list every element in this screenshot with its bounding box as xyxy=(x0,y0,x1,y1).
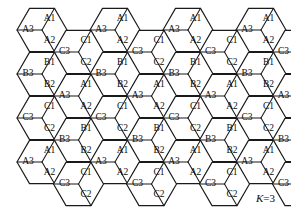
sector-label: A1 xyxy=(44,145,56,155)
sector-label: C3 xyxy=(168,112,179,122)
sector-label: C1 xyxy=(80,167,91,177)
sector-label: C1 xyxy=(44,101,55,111)
sector-label: A1 xyxy=(80,79,92,89)
sector-label: C3 xyxy=(278,46,289,56)
sector-label: B2 xyxy=(153,145,164,155)
frequency-reuse-figure: A3A1A2A3A1A2A3A1A2A3A1A2C3C1C2C3C1C2C3C1… xyxy=(0,0,291,222)
sector-label: C2 xyxy=(44,123,55,133)
sector-label: C3 xyxy=(132,46,143,56)
sector-label: A2 xyxy=(117,35,129,45)
sector-label: A3 xyxy=(22,24,34,34)
sector-label: B2 xyxy=(80,145,91,155)
sector-label: A1 xyxy=(117,145,129,155)
sector-label: C1 xyxy=(226,167,237,177)
sector-label: A3 xyxy=(95,156,107,166)
sector-label: A1 xyxy=(190,13,202,23)
sector-label: C2 xyxy=(80,57,91,67)
sector-label: C2 xyxy=(190,123,201,133)
sector-label: A2 xyxy=(190,35,202,45)
sector-label: A3 xyxy=(22,156,34,166)
sector-label: A3 xyxy=(168,24,180,34)
reuse-factor-value: 3 xyxy=(270,192,276,204)
sector-label: B2 xyxy=(44,79,55,89)
sector-label: C2 xyxy=(153,189,164,199)
sector-label: B1 xyxy=(44,57,55,67)
sector-label: A1 xyxy=(153,79,165,89)
sector-label: A2 xyxy=(44,167,56,177)
sector-label: C1 xyxy=(226,35,237,45)
sector-label: A2 xyxy=(44,35,56,45)
sector-label: A3 xyxy=(168,156,180,166)
sector-label: C3 xyxy=(132,178,143,188)
sector-label: A3 xyxy=(205,90,217,100)
sector-label: B1 xyxy=(117,57,128,67)
sector-label: C3 xyxy=(95,112,106,122)
sector-label: B3 xyxy=(132,134,143,144)
sector-label: C2 xyxy=(80,189,91,199)
sector-label: B3 xyxy=(59,134,70,144)
sector-label: C1 xyxy=(80,35,91,45)
sector-label: C1 xyxy=(153,167,164,177)
sector-label: C3 xyxy=(59,178,70,188)
sector-label: A2 xyxy=(263,35,275,45)
sector-label: C3 xyxy=(205,46,216,56)
sector-label: A2 xyxy=(117,167,129,177)
sector-label: C3 xyxy=(278,178,289,188)
sector-label: B1 xyxy=(190,57,201,67)
sector-label: A2 xyxy=(190,167,202,177)
sector-label: C2 xyxy=(263,123,274,133)
sector-label: C3 xyxy=(59,46,70,56)
sector-label: B1 xyxy=(80,123,91,133)
sector-label: C2 xyxy=(226,189,237,199)
sector-label: C1 xyxy=(190,101,201,111)
sector-label: C1 xyxy=(263,101,274,111)
sector-label: A1 xyxy=(190,145,202,155)
sector-label: B3 xyxy=(278,134,289,144)
sector-label: A3 xyxy=(241,24,253,34)
sector-label: B1 xyxy=(263,57,274,67)
sector-label: A2 xyxy=(80,101,92,111)
sector-label: A2 xyxy=(153,101,165,111)
sector-label: B2 xyxy=(190,79,201,89)
sector-label: A2 xyxy=(226,101,238,111)
sector-label: C1 xyxy=(153,35,164,45)
sector-label: B1 xyxy=(226,123,237,133)
sector-label: A1 xyxy=(44,13,56,23)
sector-label: B3 xyxy=(22,68,33,78)
hex-tiling-canvas: A3A1A2A3A1A2A3A1A2A3A1A2C3C1C2C3C1C2C3C1… xyxy=(0,0,291,222)
sector-label: B3 xyxy=(205,134,216,144)
sector-label: C3 xyxy=(205,178,216,188)
sector-label: B3 xyxy=(241,68,252,78)
sector-label: A1 xyxy=(117,13,129,23)
sector-label: C3 xyxy=(22,112,33,122)
sector-label: B2 xyxy=(117,79,128,89)
sector-label: C1 xyxy=(117,101,128,111)
reuse-factor-annotation: K=3 xyxy=(256,192,275,204)
sector-label: C2 xyxy=(153,57,164,67)
sector-label: B3 xyxy=(168,68,179,78)
sector-label: A1 xyxy=(263,145,275,155)
sector-label: A1 xyxy=(226,79,238,89)
sector-label: A2 xyxy=(263,167,275,177)
sector-label: A3 xyxy=(95,24,107,34)
sector-label: B3 xyxy=(95,68,106,78)
cells-layer: A3A1A2A3A1A2A3A1A2A3A1A2C3C1C2C3C1C2C3C1… xyxy=(17,8,291,205)
sector-label: B2 xyxy=(226,145,237,155)
sector-label: C2 xyxy=(117,123,128,133)
sector-label: A3 xyxy=(59,90,71,100)
sector-label: C3 xyxy=(241,112,252,122)
sector-label: B1 xyxy=(153,123,164,133)
sector-label: A3 xyxy=(278,90,290,100)
sector-label: B2 xyxy=(263,79,274,89)
sector-label: A1 xyxy=(263,13,275,23)
sector-label: C2 xyxy=(226,57,237,67)
sector-label: A3 xyxy=(132,90,144,100)
sector-label: A3 xyxy=(241,156,253,166)
